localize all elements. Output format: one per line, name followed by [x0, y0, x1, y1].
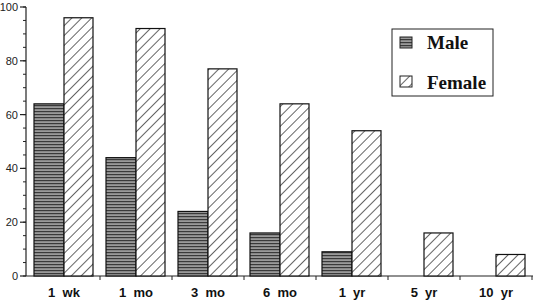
y-tick-label: 40 [6, 162, 18, 174]
bar-male [250, 233, 280, 276]
legend-label-female: Female [427, 72, 486, 93]
y-tick-label: 0 [12, 270, 18, 282]
bar-female [64, 18, 93, 276]
x-tick-label: 5 yr [411, 285, 438, 300]
x-axis: 1 wk1 mo3 mo6 mo1 yr5 yr10 yr [26, 276, 533, 300]
y-axis: 020406080100 [0, 1, 26, 282]
x-tick-label: 1 mo [119, 285, 153, 300]
bar-female [424, 233, 453, 276]
y-tick-label: 20 [6, 216, 18, 228]
bar-female [280, 104, 309, 276]
bar-female [496, 254, 525, 276]
x-tick-label: 3 mo [191, 285, 225, 300]
x-tick-label: 6 mo [263, 285, 297, 300]
male-swatch-icon [400, 37, 412, 48]
y-tick-label: 100 [0, 1, 18, 13]
bar-male [34, 104, 64, 276]
female-swatch-icon [400, 76, 412, 87]
x-tick-label: 10 yr [479, 285, 513, 300]
bar-female [208, 69, 237, 276]
bar-chart: 020406080100 1 wk1 mo3 mo6 mo1 yr5 yr10 … [0, 0, 538, 303]
legend: Male Female [392, 29, 493, 96]
x-tick-label: 1 yr [339, 285, 366, 300]
y-tick-label: 80 [6, 55, 18, 67]
legend-label-male: Male [427, 32, 468, 53]
bar-female [352, 131, 381, 276]
bar-male [106, 158, 136, 276]
bar-male [322, 252, 352, 276]
bar-female [136, 29, 165, 276]
y-tick-label: 60 [6, 109, 18, 121]
x-tick-label: 1 wk [48, 285, 81, 300]
bar-male [178, 211, 208, 276]
